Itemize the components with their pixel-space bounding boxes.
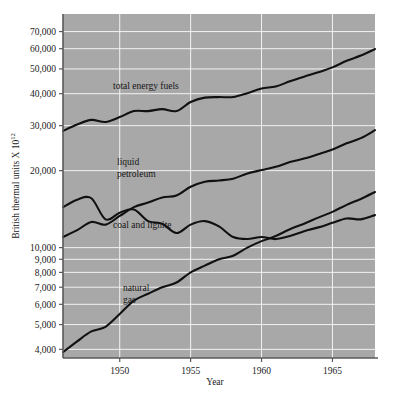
y-axis-title: British thermal units X 1012 bbox=[9, 133, 21, 239]
y-tick-label: 8,000 bbox=[35, 268, 57, 278]
series-label-coal-and-lignite: coal and lignite bbox=[113, 220, 172, 230]
x-tick-label: 1965 bbox=[323, 366, 342, 376]
y-tick-label: 6,000 bbox=[35, 300, 57, 310]
y-tick-label: 20,000 bbox=[30, 166, 56, 176]
y-axis-title-exponent: 12 bbox=[9, 133, 16, 140]
series-label-liquid-petroleum-line1: liquid bbox=[117, 157, 139, 167]
series-label-natural-gas-line2: gas bbox=[123, 295, 136, 305]
y-tick-label: 7,000 bbox=[35, 283, 57, 293]
y-tick-label: 30,000 bbox=[30, 121, 56, 131]
chart-svg: 70,00060,00050,00040,00030,00020,00010,0… bbox=[0, 0, 395, 397]
y-tick-label: 4,000 bbox=[35, 345, 57, 355]
y-tick-label: 60,000 bbox=[30, 44, 56, 54]
y-tick-label: 5,000 bbox=[35, 320, 57, 330]
y-tick-label: 40,000 bbox=[30, 89, 56, 99]
y-axis-title-main: British thermal units X 10 bbox=[11, 139, 21, 238]
series-label-total-energy-fuels: total energy fuels bbox=[113, 81, 179, 91]
y-tick-label: 50,000 bbox=[30, 64, 56, 74]
x-tick-label: 1950 bbox=[110, 366, 129, 376]
y-tick-label: 9,000 bbox=[35, 255, 57, 265]
x-tick-label: 1960 bbox=[252, 366, 271, 376]
series-label-liquid-petroleum-line2: petroleum bbox=[117, 169, 156, 179]
x-tick-label: 1955 bbox=[181, 366, 200, 376]
y-tick-label: 10,000 bbox=[30, 243, 56, 253]
plot-area-background bbox=[63, 14, 375, 358]
y-tick-label: 70,000 bbox=[30, 27, 56, 37]
series-label-natural-gas-line1: natural bbox=[123, 283, 150, 293]
x-axis-title: Year bbox=[206, 377, 224, 387]
chart-figure: 70,00060,00050,00040,00030,00020,00010,0… bbox=[0, 0, 395, 397]
